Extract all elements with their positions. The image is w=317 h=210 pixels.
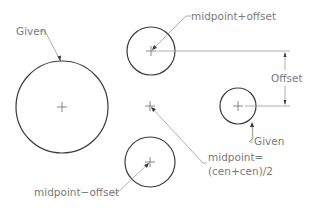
construction-diagram: Given midpoint+offset Offset Given midpo…: [0, 0, 317, 210]
given-small-label: Given: [254, 135, 284, 147]
midpoint-leader: [151, 107, 207, 163]
midpoint-formula-line2: (cen+cen)/2: [208, 165, 273, 177]
midpoint-formula-line1: midpoint=: [208, 151, 263, 163]
midpoint-plus-offset-label: midpoint+offset: [191, 10, 276, 22]
offset-label: Offset: [271, 72, 303, 84]
midpoint-minus-offset-circle: [125, 137, 175, 187]
midpoint-minus-offset-label: midpoint−offset: [34, 186, 119, 198]
given-large-label: Given: [16, 25, 46, 37]
given-large-circle: [16, 61, 108, 153]
midpoint-plus-offset-leader: [152, 16, 191, 50]
